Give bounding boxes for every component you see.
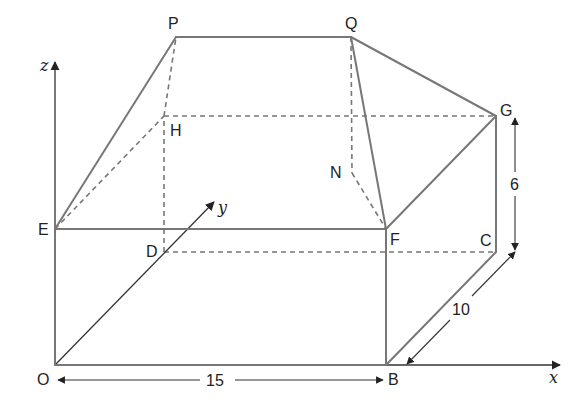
- label-C: C: [480, 232, 492, 249]
- label-N: N: [330, 164, 342, 181]
- label-Q: Q: [345, 15, 357, 32]
- edge-QG: [351, 37, 496, 116]
- edge-ED-hidden: [55, 116, 164, 229]
- label-x-axis: x: [549, 368, 558, 387]
- dim-10-upper: [472, 252, 515, 296]
- dim-10-lower: [407, 320, 450, 364]
- edge-HP: [164, 37, 176, 116]
- edge-QN: [351, 37, 352, 173]
- label-B: B: [388, 371, 399, 388]
- vertex-labels: P Q G H N E D F C O B: [37, 15, 512, 388]
- label-E: E: [38, 221, 49, 238]
- label-H: H: [170, 122, 182, 139]
- label-O: O: [37, 371, 49, 388]
- label-y-axis: y: [217, 198, 228, 217]
- solid-diagram: P Q G H N E D F C O B z y x 15 10 6: [0, 0, 582, 404]
- dim-label-15: 15: [206, 372, 224, 389]
- edge-BC: [386, 252, 496, 365]
- label-F: F: [390, 231, 400, 248]
- dimension-labels: 15 10 6: [206, 176, 519, 389]
- hidden-edges: [55, 37, 496, 252]
- label-z-axis: z: [39, 56, 49, 75]
- dim-label-6: 6: [510, 176, 519, 193]
- label-G: G: [500, 102, 512, 119]
- label-D: D: [146, 243, 158, 260]
- edge-FG: [386, 116, 496, 229]
- dim-label-10: 10: [452, 301, 470, 318]
- edge-EP: [55, 37, 176, 229]
- dimension-lines: [58, 118, 515, 380]
- y-axis: [55, 202, 214, 365]
- axis-labels: z y x: [39, 56, 558, 387]
- visible-edges: [55, 37, 496, 365]
- label-P: P: [168, 15, 179, 32]
